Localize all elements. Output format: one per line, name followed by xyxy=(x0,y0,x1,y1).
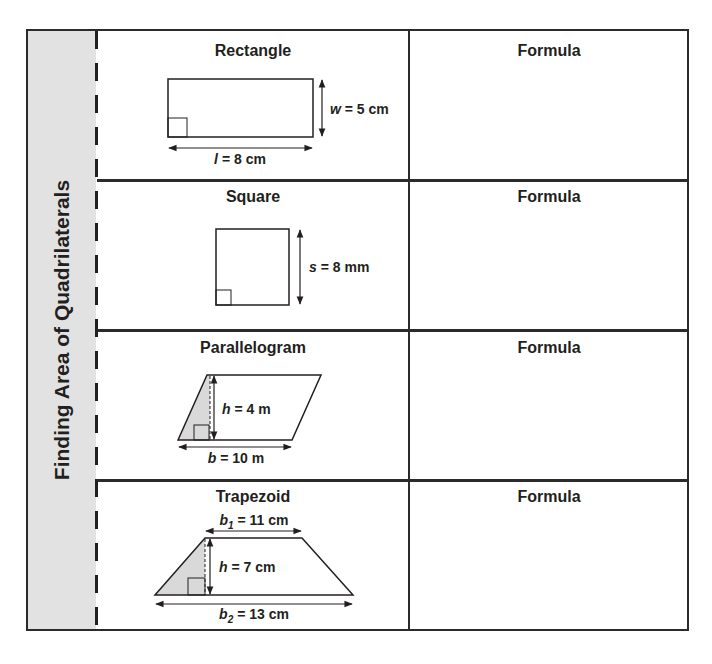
right-angle-icon xyxy=(168,118,187,137)
square-diagram: s = 8 mm xyxy=(216,229,369,305)
parallelogram-diagram: h = 4 m b = 10 m xyxy=(178,375,321,466)
width-label: w = 5 cm xyxy=(330,101,389,117)
shape-diagrams: w = 5 cm l = 8 cm s = 8 mm h = 4 m b = 1… xyxy=(0,0,712,664)
side-label: s = 8 mm xyxy=(309,259,369,275)
base2-label: b2 = 13 cm xyxy=(219,606,289,625)
base-label: b = 10 m xyxy=(208,450,264,466)
base1-label: b1 = 11 cm xyxy=(219,512,288,531)
height-label: h = 4 m xyxy=(222,401,271,417)
length-label: l = 8 cm xyxy=(214,151,266,167)
height-label: h = 7 cm xyxy=(219,559,275,575)
trapezoid-diagram: b1 = 11 cm h = 7 cm b2 = 13 cm xyxy=(155,512,353,625)
rectangle-diagram: w = 5 cm l = 8 cm xyxy=(168,79,389,167)
right-angle-icon xyxy=(216,290,231,305)
